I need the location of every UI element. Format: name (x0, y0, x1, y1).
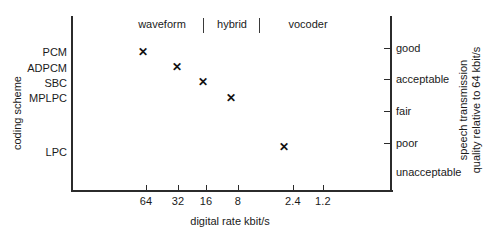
y-right-tick-good (384, 48, 391, 49)
x-tick-8 (238, 185, 239, 191)
x-tick-label-32: 32 (172, 195, 185, 207)
y-right-label-poor: poor (396, 137, 418, 149)
y-right-label-good: good (396, 42, 420, 54)
y-axis-title-right: quality relative to 64 kbit/s speech tra… (457, 47, 483, 174)
y-right-tick-acceptable (384, 79, 391, 80)
x-tick-label-16: 16 (200, 195, 213, 207)
category-separator-1 (259, 18, 260, 33)
x-tick-64 (146, 185, 147, 191)
x-tick-label-1.2: 1.2 (315, 195, 331, 207)
data-point-LPC: ✕ (279, 142, 290, 153)
x-tick-label-2.4: 2.4 (285, 195, 301, 207)
y-axis-title-left: coding scheme (11, 76, 23, 150)
y-right-tick-fair (384, 111, 391, 112)
x-tick-label-8: 8 (235, 195, 241, 207)
x-tick-label-64: 64 (140, 195, 153, 207)
scheme-label-LPC: LPC (46, 146, 67, 158)
category-label-hybrid: hybrid (217, 18, 247, 30)
category-separator-0 (203, 18, 204, 33)
x-tick-32 (178, 185, 179, 191)
scheme-label-SBC: SBC (44, 77, 67, 89)
y-right-label-fair: fair (396, 105, 411, 117)
x-tick-1.2 (323, 185, 324, 191)
y-axis-left-line (71, 16, 73, 192)
y-right-label-acceptable: acceptable (396, 73, 449, 85)
x-tick-16 (206, 185, 207, 191)
scheme-label-ADPCM: ADPCM (27, 62, 67, 74)
data-point-SBC: ✕ (198, 77, 209, 88)
scheme-label-PCM: PCM (43, 46, 67, 58)
data-point-ADPCM: ✕ (172, 62, 183, 73)
y-axis-right-line (390, 16, 392, 192)
x-tick-2.4 (293, 185, 294, 191)
speech-coding-quality-chart: waveformhybridvocoder PCMADPCMSBCMPLPCLP… (0, 0, 499, 245)
y-axis-title-right-line-2: speech transmission (457, 60, 470, 160)
scheme-label-MPLPC: MPLPC (29, 92, 67, 104)
y-right-tick-poor (384, 143, 391, 144)
y-right-label-unacceptable: unacceptable (396, 166, 461, 178)
data-point-PCM: ✕ (138, 47, 149, 58)
x-axis-line (71, 190, 393, 192)
y-axis-title-right-line-1: quality relative to 64 kbit/s (470, 47, 483, 174)
category-label-vocoder: vocoder (288, 18, 327, 30)
x-axis-title: digital rate kbit/s (190, 215, 269, 227)
category-label-waveform: waveform (138, 18, 186, 30)
data-point-MPLPC: ✕ (226, 93, 237, 104)
